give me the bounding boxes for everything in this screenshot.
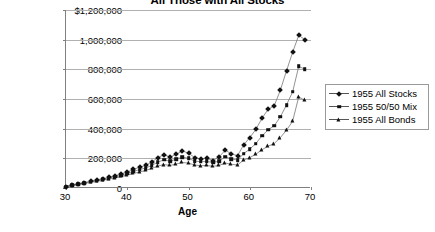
data-point-triangle (137, 169, 141, 173)
data-point-square (285, 103, 289, 107)
data-point-triangle (100, 178, 104, 182)
data-point-triangle (76, 182, 80, 186)
data-point-square (181, 155, 185, 159)
data-point-triangle (284, 128, 288, 132)
data-point-triangle (302, 98, 306, 102)
diamond-marker-icon (328, 87, 350, 100)
data-point-triangle (210, 164, 214, 168)
chart-container: All Those with All Stocks $1,200,000 1,0… (0, 0, 435, 232)
data-point-triangle (161, 162, 165, 166)
data-point-square (260, 134, 264, 138)
x-axis-label-2: 50 (173, 191, 203, 202)
data-point-triangle (186, 160, 190, 164)
data-point-square (242, 152, 246, 156)
data-point-square (236, 158, 240, 162)
x-tick (311, 187, 312, 190)
data-point-triangle (247, 155, 251, 159)
data-point-triangle (125, 172, 129, 176)
data-point-square (266, 128, 270, 132)
x-axis-label-1: 40 (111, 191, 141, 202)
data-point-square (223, 155, 227, 159)
data-point-square (248, 147, 252, 151)
data-point-triangle (217, 163, 221, 167)
x-axis-label-3: 60 (234, 191, 264, 202)
data-point-triangle (266, 144, 270, 148)
data-point-triangle (253, 152, 257, 156)
triangle-marker-icon (328, 113, 350, 126)
data-point-triangle (272, 141, 276, 145)
series-line-1 (66, 66, 305, 186)
data-point-triangle (296, 94, 300, 98)
data-point-triangle (180, 160, 184, 164)
data-point-triangle (94, 179, 98, 183)
data-point-triangle (131, 171, 135, 175)
data-point-triangle (168, 163, 172, 167)
data-point-triangle (63, 184, 67, 188)
data-point-square (279, 115, 283, 119)
plot-area (65, 10, 310, 188)
data-point-triangle (278, 135, 282, 139)
x-axis-label-0: 30 (50, 191, 80, 202)
data-point-square (297, 65, 301, 69)
data-point-triangle (155, 163, 159, 167)
data-point-triangle (235, 162, 239, 166)
legend-label-all-stocks: 1955 All Stocks (350, 88, 417, 99)
legend-label-5050-mix: 1955 50/50 Mix (350, 101, 417, 112)
data-point-square (254, 142, 258, 146)
chart-legend: 1955 All Stocks 1955 50/50 Mix 1955 All … (325, 84, 429, 130)
data-point-triangle (204, 163, 208, 167)
x-axis-label-4: 70 (295, 191, 325, 202)
legend-item-all-stocks: 1955 All Stocks (328, 87, 425, 100)
data-point-triangle (223, 160, 227, 164)
legend-label-all-bonds: 1955 All Bonds (350, 114, 415, 125)
data-point-square (174, 157, 178, 161)
data-point-square (272, 124, 276, 128)
data-point-triangle (88, 180, 92, 184)
data-point-triangle (112, 175, 116, 179)
data-point-square (230, 157, 234, 161)
legend-item-5050-mix: 1955 50/50 Mix (328, 100, 425, 113)
data-point-triangle (106, 176, 110, 180)
data-point-triangle (143, 168, 147, 172)
data-point-square (303, 68, 307, 72)
data-point-square (291, 90, 295, 94)
data-point-triangle (198, 163, 202, 167)
data-point-triangle (149, 166, 153, 170)
data-point-triangle (192, 162, 196, 166)
square-marker-icon (328, 100, 350, 113)
data-point-triangle (229, 162, 233, 166)
x-axis-title: Age (0, 206, 375, 217)
data-point-triangle (70, 183, 74, 187)
data-point-triangle (241, 158, 245, 162)
legend-item-all-bonds: 1955 All Bonds (328, 113, 425, 126)
data-point-triangle (119, 174, 123, 178)
data-point-triangle (259, 147, 263, 151)
data-point-triangle (290, 119, 294, 123)
data-point-triangle (174, 161, 178, 165)
data-point-triangle (82, 181, 86, 185)
